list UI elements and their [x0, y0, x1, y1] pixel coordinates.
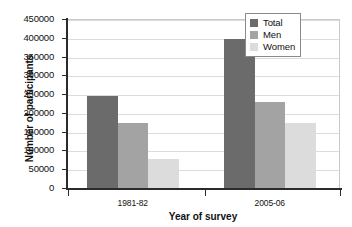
chart-legend: TotalMenWomen [245, 13, 301, 57]
y-axis-tickmark [62, 188, 67, 189]
y-axis-tickmark [62, 169, 67, 170]
y-axis-tickmark [62, 150, 67, 151]
legend-swatch-icon [250, 43, 258, 51]
x-axis-tickmark [68, 190, 69, 196]
bar-chart: Number of participants 05000010000015000… [0, 0, 352, 227]
y-axis-tickmark [62, 57, 67, 58]
legend-swatch-icon [250, 19, 258, 27]
y-axis-tickmark [62, 132, 67, 133]
x-axis-title: Year of survey [67, 211, 339, 222]
y-axis-tickmark [62, 94, 67, 95]
y-axis-tickmark [62, 75, 67, 76]
legend-swatch-icon [250, 31, 258, 39]
legend-label: Men [263, 30, 281, 40]
x-axis-tickmark [205, 190, 206, 196]
x-axis-ticklabel: 1981-82 [93, 199, 173, 208]
y-axis-tickmark [62, 38, 67, 39]
legend-item: Total [250, 17, 295, 29]
legend-item: Women [250, 41, 295, 53]
legend-label: Women [263, 42, 295, 52]
y-axis-tickmark [62, 113, 67, 114]
x-axis-ticklabel: 2005-06 [230, 199, 310, 208]
legend-item: Men [250, 29, 295, 41]
y-axis-tickmark [62, 19, 67, 20]
legend-label: Total [263, 18, 283, 28]
x-axis-tickmark [340, 190, 341, 196]
